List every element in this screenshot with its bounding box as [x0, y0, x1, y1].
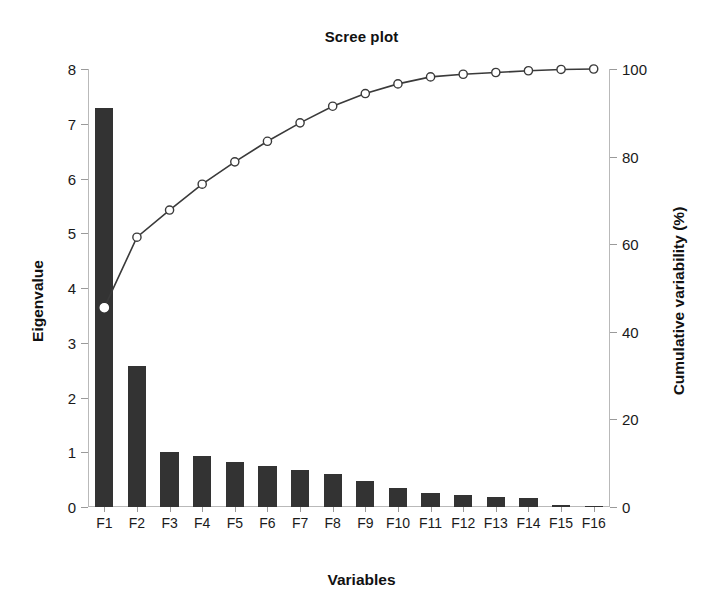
x-axis-tick [267, 507, 268, 512]
y-axis-left-tick-label: 7 [68, 115, 76, 132]
x-axis-tick-label: F11 [419, 515, 442, 531]
y-axis-right-tick [610, 419, 617, 420]
cumulative-line-path [104, 69, 593, 308]
y-axis-right-tick [610, 244, 617, 245]
x-axis-tick-label: F15 [549, 515, 573, 531]
x-axis-tick-label: F6 [259, 515, 275, 531]
x-axis-tick [300, 507, 301, 512]
x-axis-tick [594, 507, 595, 512]
plot-area: 012345678 020406080100 F1F2F3F4F5F6F7F8F… [88, 69, 610, 507]
cumulative-line-marker [557, 65, 565, 73]
y-axis-right-tick-label: 60 [622, 236, 639, 253]
x-axis-tick [496, 507, 497, 512]
x-axis-tick-label: F3 [161, 515, 177, 531]
x-axis-tick [398, 507, 399, 512]
x-axis-tick [528, 507, 529, 512]
y-axis-left-tick [81, 507, 88, 508]
x-axis-tick-label: F16 [582, 515, 606, 531]
y-axis-right-tick-label: 80 [622, 148, 639, 165]
x-axis-tick-label: F1 [96, 515, 112, 531]
x-axis-tick [463, 507, 464, 512]
y-axis-right-tick-label: 40 [622, 323, 639, 340]
x-axis-tick [170, 507, 171, 512]
cumulative-line-marker [133, 233, 141, 241]
y-axis-left-tick-label: 6 [68, 170, 76, 187]
x-axis-tick [137, 507, 138, 512]
x-axis-tick [561, 507, 562, 512]
x-axis-title: Variables [0, 571, 723, 589]
x-axis-tick-label: F14 [516, 515, 540, 531]
x-axis-tick [431, 507, 432, 512]
y-axis-right-tick-label: 100 [622, 61, 647, 78]
y-axis-title-left: Eigenvalue [29, 201, 47, 401]
y-axis-left-tick [81, 69, 88, 70]
x-axis-tick-label: F2 [129, 515, 145, 531]
scree-plot-figure: Scree plot Eigenvalue Cumulative variabi… [0, 0, 723, 601]
y-axis-left-tick [81, 124, 88, 125]
y-axis-left-tick-label: 2 [68, 389, 76, 406]
cumulative-line-marker [165, 206, 173, 214]
y-axis-right-tick [610, 69, 617, 70]
y-axis-left-tick-label: 5 [68, 225, 76, 242]
page-title: Scree plot [0, 28, 723, 45]
cumulative-line-marker [426, 73, 434, 81]
y-axis-left-tick-label: 3 [68, 334, 76, 351]
cumulative-line-marker [361, 89, 369, 97]
y-axis-left-tick-label: 8 [68, 61, 76, 78]
x-axis-tick [104, 507, 105, 512]
cumulative-line-marker [329, 102, 337, 110]
x-axis-tick-label: F4 [194, 515, 210, 531]
x-axis-tick [202, 507, 203, 512]
y-axis-left-tick-label: 1 [68, 444, 76, 461]
cumulative-line-marker [231, 158, 239, 166]
x-axis-tick-label: F8 [325, 515, 341, 531]
cumulative-line-marker [524, 67, 532, 75]
cumulative-line-marker [492, 68, 500, 76]
cumulative-line-marker [296, 119, 304, 127]
x-axis-tick-label: F9 [357, 515, 373, 531]
cumulative-line-marker [100, 304, 108, 312]
y-axis-right-tick [610, 507, 617, 508]
x-axis-tick-label: F12 [451, 515, 475, 531]
cumulative-line-marker [459, 70, 467, 78]
y-axis-left-tick [81, 398, 88, 399]
x-axis-tick-label: F7 [292, 515, 308, 531]
x-axis-tick [235, 507, 236, 512]
cumulative-line-marker [198, 180, 206, 188]
y-axis-title-right: Cumulative variability (%) [670, 141, 688, 461]
cumulative-line-marker [590, 65, 598, 73]
y-axis-right-tick [610, 157, 617, 158]
y-axis-left-tick-label: 0 [68, 499, 76, 516]
x-axis-tick-label: F5 [227, 515, 243, 531]
y-axis-right-tick [610, 332, 617, 333]
y-axis-left-tick [81, 343, 88, 344]
cumulative-line-marker [394, 80, 402, 88]
y-axis-right-tick-label: 0 [622, 499, 630, 516]
x-axis-tick [333, 507, 334, 512]
cumulative-line-marker [263, 137, 271, 145]
y-axis-left-tick [81, 452, 88, 453]
y-axis-left-tick-label: 4 [68, 280, 76, 297]
y-axis-left-tick [81, 179, 88, 180]
x-axis-tick-label: F13 [484, 515, 508, 531]
x-axis-tick [365, 507, 366, 512]
cumulative-line-series [88, 69, 610, 507]
y-axis-right-tick-label: 20 [622, 411, 639, 428]
y-axis-left-tick [81, 233, 88, 234]
y-axis-left-tick [81, 288, 88, 289]
x-axis-tick-label: F10 [386, 515, 410, 531]
